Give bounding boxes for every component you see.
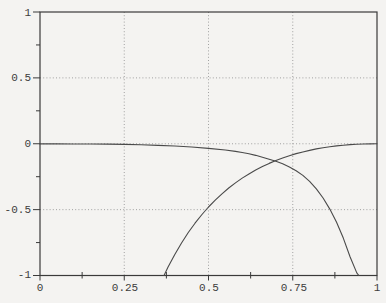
y-axis-tick-label: 0 <box>0 138 31 150</box>
y-axis-tick-label: 1 <box>0 7 31 19</box>
x-axis-tick-label: 0 <box>37 282 44 294</box>
plot-canvas <box>0 0 386 303</box>
x-axis-tick-label: 0.75 <box>281 282 307 294</box>
y-axis-tick-label: -0.5 <box>0 204 31 216</box>
y-axis-tick-label: 0.5 <box>0 72 31 84</box>
y-axis-tick-label: -1 <box>0 269 31 281</box>
falling-curve <box>40 144 359 276</box>
x-axis-tick-label: 0.25 <box>112 282 138 294</box>
plot-figure: 1 0.5 0 -0.5 -1 0 0.25 0.5 0.75 1 <box>0 0 386 303</box>
x-axis-tick-label: 1 <box>374 282 381 294</box>
x-axis-tick-label: 0.5 <box>199 282 219 294</box>
